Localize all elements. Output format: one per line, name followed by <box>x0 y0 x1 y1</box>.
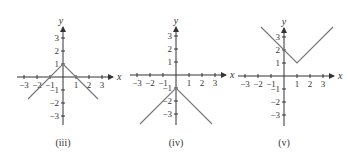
tick-label: 1 <box>187 78 192 88</box>
tick-label: −2 <box>49 98 59 108</box>
graph-iii: −3 −2 −1 1 2 3 3 2 1 −1 −2 −3 x y (iii) <box>17 15 122 149</box>
tick-label: −2 <box>253 79 263 89</box>
tick-label: −3 <box>132 78 142 88</box>
tick-label: 3 <box>321 79 326 89</box>
tick-label: 1 <box>276 58 281 68</box>
y-axis-label: y <box>173 15 179 26</box>
tick-label: −2 <box>270 97 280 107</box>
tick-label: 3 <box>213 78 218 88</box>
tick-label: −1 <box>162 83 172 93</box>
tick-label: −1 <box>270 84 280 94</box>
tick-label: −3 <box>19 80 29 90</box>
tick-label: 1 <box>55 59 60 69</box>
tick-label: 3 <box>276 32 281 42</box>
graph-iv: −3 −2 −1 1 2 3 3 2 1 −1 −2 −3 x y (iv) <box>130 15 235 149</box>
tick-label: 3 <box>168 31 173 41</box>
caption-v: (v) <box>278 137 290 149</box>
tick-label: 2 <box>55 46 60 56</box>
caption-iv: (iv) <box>169 137 183 149</box>
tick-label: −2 <box>32 80 42 90</box>
tick-label: 2 <box>168 44 173 54</box>
tick-label: 1 <box>74 80 79 90</box>
tick-label: −3 <box>162 109 172 119</box>
x-axis-label: x <box>116 71 122 82</box>
caption-iii: (iii) <box>56 137 71 149</box>
graph-v: −3 −2 −1 1 2 3 3 2 1 −1 −2 −3 x y (v) <box>238 16 343 149</box>
tick-label: 2 <box>308 79 313 89</box>
tick-label: −3 <box>270 110 280 120</box>
tick-label: 1 <box>295 79 300 89</box>
tick-label: 3 <box>100 80 105 90</box>
tick-label: 2 <box>276 45 281 55</box>
y-axis-label: y <box>281 16 287 27</box>
y-axis-label: y <box>58 15 64 26</box>
tick-label: −3 <box>49 111 59 121</box>
tick-label: −3 <box>240 79 250 89</box>
tick-label: −1 <box>49 85 59 95</box>
tick-label: 2 <box>200 78 205 88</box>
tick-label: 1 <box>168 57 173 67</box>
graphs-figure: −3 −2 −1 1 2 3 3 2 1 −1 −2 −3 x y (iii) … <box>0 0 348 157</box>
tick-label: −2 <box>145 78 155 88</box>
x-axis-label: x <box>229 69 235 80</box>
curve-v <box>261 27 333 63</box>
x-axis-label: x <box>337 70 343 81</box>
tick-label: 3 <box>55 33 60 43</box>
